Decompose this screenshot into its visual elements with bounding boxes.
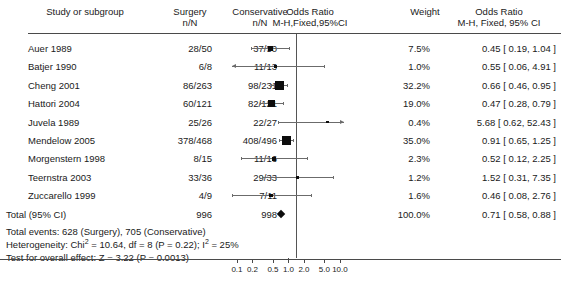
effect-size-marker — [275, 81, 284, 90]
odds-ratio-ci: 0.66 [ 0.46, 0.95 ] — [430, 80, 556, 91]
ci-arrow-upper — [340, 120, 344, 124]
surgery-count: 6/8 — [140, 61, 212, 72]
odds-ratio-ci: 0.71 [ 0.58, 0.88 ] — [430, 209, 556, 220]
odds-ratio-ci: 0.55 [ 0.06, 4.91 ] — [430, 61, 556, 72]
ci-cap-upper — [293, 139, 294, 142]
column-header-odds-ratio-value: Odds Ratio M-H, Fixed, 95% CI — [440, 6, 558, 28]
effect-size-marker — [296, 176, 299, 179]
weight-value: 1.6% — [375, 190, 430, 201]
odds-ratio-ci: 0.45 [ 0.19, 1.04 ] — [430, 43, 556, 54]
weight-value: 7.5% — [375, 43, 430, 54]
column-header-study: Study or subgroup — [10, 6, 160, 17]
surgery-count: 378/468 — [140, 135, 212, 146]
axis-tick-label: 10.0 — [328, 265, 352, 274]
ci-cap-lower — [271, 84, 272, 87]
effect-size-marker — [326, 121, 328, 123]
weight-value: 1.2% — [375, 172, 430, 183]
effect-size-marker — [269, 194, 272, 197]
odds-ratio-ci: 0.91 [ 0.65, 1.25 ] — [430, 135, 556, 146]
ci-cap-upper — [311, 194, 312, 197]
heterogeneity-mid: = 10.64, df = 8 (P = 0.22); I — [89, 239, 205, 250]
surgery-count: 4/9 — [140, 190, 212, 201]
odds-ratio-ci: 1.52 [ 0.31, 7.35 ] — [430, 172, 556, 183]
axis-tick — [288, 258, 289, 263]
surgery-count: 60/121 — [140, 98, 212, 109]
surgery-count: 86/263 — [140, 80, 212, 91]
weight-value: 32.2% — [375, 80, 430, 91]
axis-tick — [340, 260, 341, 263]
forest-plot-area — [232, 34, 344, 258]
ci-cap-upper — [287, 84, 288, 87]
weight-value: 35.0% — [375, 135, 430, 146]
axis-tick — [252, 260, 253, 263]
weight-value: 100.0% — [375, 209, 430, 220]
axis-tick — [273, 260, 274, 263]
weight-value: 19.0% — [375, 98, 430, 109]
odds-ratio-ci: 0.47 [ 0.28, 0.79 ] — [430, 98, 556, 109]
overall-effect-text: Test for overall effect: Z = 3.22 (P = 0… — [6, 252, 189, 263]
ci-cap-upper — [307, 157, 308, 160]
weight-value: 2.3% — [375, 153, 430, 164]
footer-divider — [0, 259, 561, 260]
ci-cap-upper — [283, 102, 284, 105]
surgery-count: 996 — [140, 209, 212, 220]
effect-size-marker — [268, 46, 273, 51]
effect-size-marker — [272, 157, 276, 161]
null-effect-line — [296, 34, 297, 258]
effect-size-marker — [274, 65, 277, 68]
weight-value: 0.4% — [375, 117, 430, 128]
ci-cap-upper — [324, 65, 325, 68]
ci-cap-lower — [241, 157, 242, 160]
odds-ratio-ci: 0.46 [ 0.08, 2.76 ] — [430, 190, 556, 201]
effect-size-marker — [268, 100, 275, 107]
ci-cap-lower — [278, 121, 279, 124]
ci-cap-lower — [251, 47, 252, 50]
ci-cap-lower — [262, 176, 263, 179]
ci-cap-upper — [289, 47, 290, 50]
ci-cap-lower — [260, 102, 261, 105]
effect-size-marker — [282, 136, 291, 145]
surgery-count: 25/26 — [140, 117, 212, 128]
surgery-count: 33/36 — [140, 172, 212, 183]
heterogeneity-pre: Heterogeneity: Chi — [6, 239, 85, 250]
ci-cap-upper — [333, 176, 334, 179]
study-label: Total (95% CI) — [6, 209, 146, 220]
summary-diamond — [277, 209, 286, 218]
surgery-count: 8/15 — [140, 153, 212, 164]
heterogeneity-text: Heterogeneity: Chi2 = 10.64, df = 8 (P =… — [6, 239, 239, 250]
confidence-interval-line — [232, 66, 324, 67]
axis-tick — [304, 260, 305, 263]
total-events-text: Total events: 628 (Surgery), 705 (Conser… — [6, 226, 206, 237]
forest-plot-figure: Study or subgroup Surgery n/N Conservati… — [0, 0, 561, 283]
axis-tick — [324, 260, 325, 263]
ci-cap-lower — [232, 194, 233, 197]
confidence-interval-line — [278, 122, 344, 123]
axis-tick — [237, 260, 238, 263]
surgery-count: 28/50 — [140, 43, 212, 54]
ci-cap-lower — [279, 139, 280, 142]
weight-value: 1.0% — [375, 61, 430, 72]
column-header-odds-ratio-plot: Odds Ratio M-H,Fixed,95%CI — [230, 6, 390, 28]
odds-ratio-ci: 5.68 [ 0.62, 52.43 ] — [430, 117, 556, 128]
heterogeneity-post: = 25% — [209, 239, 239, 250]
odds-ratio-ci: 0.52 [ 0.12, 2.25 ] — [430, 153, 556, 164]
ci-arrow-lower — [232, 64, 236, 68]
